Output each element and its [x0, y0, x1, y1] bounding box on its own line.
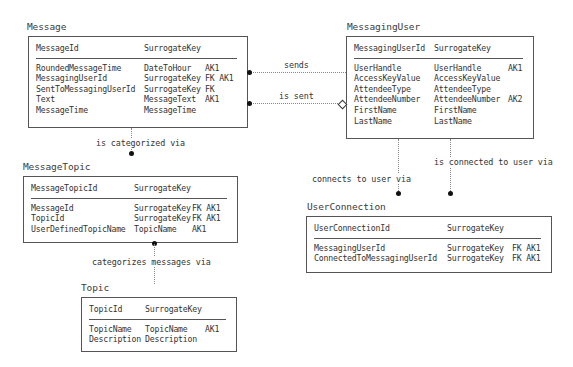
attr-row: LastNameLastName — [354, 116, 527, 127]
pk-row: MessagingUserId SurrogateKey — [354, 43, 527, 54]
entity-user-connection[interactable]: UserConnectionId SurrogateKey MessagingU… — [306, 216, 552, 273]
attr-name: MessageId — [36, 43, 144, 54]
attr-row: MessagingUserIdSurrogateKeyFK AK1 — [314, 243, 545, 254]
entity-message-topic[interactable]: MessageTopicId SurrogateKey MessageIdSur… — [23, 176, 238, 243]
attr-name: UserConnectionId — [314, 223, 447, 234]
entity-title-user-connection: UserConnection — [307, 201, 386, 212]
relationship-line-sends — [250, 72, 346, 73]
attr-row: TopicNameTopicNameAK1 — [89, 324, 230, 335]
entity-message[interactable]: MessageId SurrogateKey RoundedMessageTim… — [28, 36, 248, 128]
attr-type: SurrogateKey — [134, 183, 191, 194]
relationship-line-connects-to-user-via — [398, 139, 399, 193]
pk-row: UserConnectionId SurrogateKey — [314, 223, 545, 234]
attr-type: SurrogateKey — [144, 43, 202, 54]
attr-row: TextMessageTextAK1 — [36, 94, 241, 105]
attr-type: SurrogateKey — [145, 304, 202, 315]
relationship-label-is-categorized-via: is categorized via — [96, 138, 185, 148]
entity-title-messaging-user: MessagingUser — [347, 21, 420, 32]
pk-separator — [89, 319, 226, 320]
relationship-label-categorizes-messages-via: categorizes messages via — [92, 257, 211, 267]
pk-separator — [31, 198, 227, 199]
pk-separator — [354, 58, 523, 59]
attr-row: UserDefinedTopicNameTopicNameAK1 — [31, 224, 231, 235]
attr-row: MessageTimeMessageTime — [36, 105, 241, 116]
dot-endpoint-icon — [129, 151, 134, 156]
dot-endpoint-icon — [396, 191, 401, 196]
entity-title-topic: Topic — [81, 282, 109, 293]
pk-row: MessageTopicId SurrogateKey — [31, 183, 231, 194]
attr-row: FirstNameFirstName — [354, 105, 527, 116]
attr-type: SurrogateKey — [447, 223, 504, 234]
attr-name: MessagingUserId — [354, 43, 434, 54]
attr-row: SentToMessagingUserIdSurrogateKeyFK — [36, 84, 241, 95]
pk-row: TopicId SurrogateKey — [89, 304, 230, 315]
attr-row: ConnectedToMessagingUserIdSurrogateKeyFK… — [314, 253, 545, 264]
attr-row: DescriptionDescription — [89, 334, 230, 345]
attr-row: MessageIdSurrogateKeyFK AK1 — [31, 203, 231, 214]
attr-row: UserHandleUserHandleAK1 — [354, 63, 527, 74]
attr-row: RoundedMessageTimeDateToHourAK1 — [36, 63, 241, 74]
dot-endpoint-icon — [247, 101, 252, 106]
relationship-line-is-sent — [250, 103, 340, 104]
relationship-label-sends: sends — [284, 60, 309, 70]
relationship-label-is-connected-to-user-via: is connected to user via — [434, 157, 553, 167]
attr-type: SurrogateKey — [434, 43, 491, 54]
pk-row: MessageId SurrogateKey — [36, 43, 241, 54]
entity-title-message-topic: MessageTopic — [23, 161, 90, 172]
attr-row: AttendeeTypeAttendeeType — [354, 84, 527, 95]
attr-row: TopicIdSurrogateKeyFK AK1 — [31, 213, 231, 224]
relationship-label-connects-to-user-via: connects to user via — [312, 174, 411, 184]
attr-name: TopicId — [89, 304, 145, 315]
entity-messaging-user[interactable]: MessagingUserId SurrogateKey UserHandleU… — [346, 36, 534, 139]
pk-separator — [36, 58, 237, 59]
dot-endpoint-icon — [448, 191, 453, 196]
entity-topic[interactable]: TopicId SurrogateKey TopicNameTopicNameA… — [81, 297, 237, 352]
attr-row: AccessKeyValueAccessKeyValue — [354, 73, 527, 84]
pk-separator — [314, 238, 541, 239]
entity-title-message: Message — [27, 21, 66, 32]
attr-row: MessagingUserIdSurrogateKeyFK AK1 — [36, 73, 241, 84]
relationship-label-is-sent: is sent — [279, 91, 314, 101]
dot-endpoint-icon — [247, 70, 252, 75]
attr-name: MessageTopicId — [31, 183, 134, 194]
attr-row: AttendeeNumberAttendeeNumberAK2 — [354, 94, 527, 105]
